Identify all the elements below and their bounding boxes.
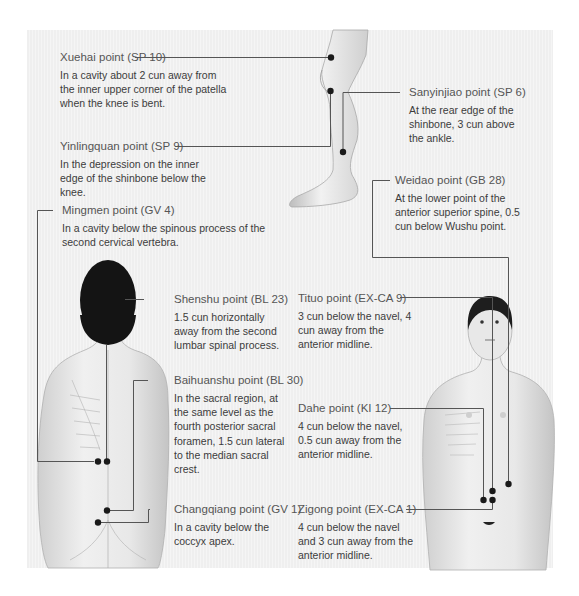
point-title: Sanyinjiao point (SP 6) — [409, 85, 529, 100]
dot-shenshu — [104, 458, 110, 464]
label-weidao: Weidao point (GB 28) At the lower point … — [395, 173, 530, 234]
label-mingmen: Mingmen point (GV 4) In a cavity below t… — [62, 203, 287, 249]
point-title: Weidao point (GB 28) — [395, 173, 530, 188]
label-xuehai: Xuehai point (SP 10) In a cavity about 2… — [60, 50, 230, 111]
dot-mingmen — [95, 458, 101, 464]
dot-sanyinjiao — [340, 149, 346, 155]
label-tituo: Tituo point (EX-CA 9) 3 cun below the na… — [298, 291, 416, 352]
point-description: At the rear edge of the shinbone, 3 cun … — [409, 103, 529, 146]
dot-zigong — [489, 497, 495, 503]
point-title: Zigong point (EX-CA 1) — [298, 502, 413, 517]
label-yinlingquan: Yinlingquan point (SP 9) In the depressi… — [60, 139, 225, 200]
dot-xuehai — [328, 54, 334, 60]
point-description: 1.5 cun horizontally away from the secon… — [174, 310, 286, 353]
dot-changqiang — [95, 519, 101, 525]
point-description: 3 cun below the navel, 4 cun away from t… — [298, 309, 416, 352]
label-baihuanshu: Baihuanshu point (BL 30) In the sacral r… — [174, 373, 294, 476]
label-changqiang: Changqiang point (GV 1) In a cavity belo… — [174, 502, 292, 548]
point-description: In a cavity about 2 cun away from the in… — [60, 68, 230, 111]
dot-weidao — [505, 481, 511, 487]
point-description: In a cavity below the spinous process of… — [62, 221, 287, 249]
point-title: Shenshu point (BL 23) — [174, 292, 286, 307]
point-title: Dahe point (KI 12) — [298, 401, 416, 416]
label-dahe: Dahe point (KI 12) 4 cun below the navel… — [298, 401, 416, 462]
point-title: Tituo point (EX-CA 9) — [298, 291, 416, 306]
point-title: Xuehai point (SP 10) — [60, 50, 230, 65]
label-zigong: Zigong point (EX-CA 1) 4 cun below the n… — [298, 502, 413, 563]
dot-yinlingquan — [327, 88, 333, 94]
point-title: Mingmen point (GV 4) — [62, 203, 287, 218]
dot-baihuanshu — [104, 507, 110, 513]
point-title: Baihuanshu point (BL 30) — [174, 373, 294, 388]
point-description: 4 cun below the navel, 0.5 cun away from… — [298, 419, 416, 462]
dot-dahe — [480, 497, 486, 503]
back-figure — [38, 260, 169, 568]
dot-tituo — [489, 488, 495, 494]
point-description: In a cavity below the coccyx apex. — [174, 520, 292, 548]
front-figure — [423, 296, 555, 570]
point-title: Changqiang point (GV 1) — [174, 502, 292, 517]
point-description: At the lower point of the anterior super… — [395, 191, 530, 234]
point-title: Yinlingquan point (SP 9) — [60, 139, 225, 154]
point-description: In the depression on the inner edge of t… — [60, 157, 225, 200]
point-description: 4 cun below the navel and 3 cun away fro… — [298, 520, 413, 563]
label-sanyinjiao: Sanyinjiao point (SP 6) At the rear edge… — [409, 85, 529, 146]
point-description: In the sacral region, at the same level … — [174, 391, 294, 476]
label-shenshu: Shenshu point (BL 23) 1.5 cun horizontal… — [174, 292, 286, 353]
